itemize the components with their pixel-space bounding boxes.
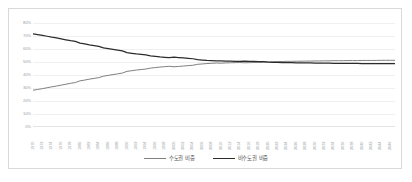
x-axis-tick-label: 2014 (237, 142, 241, 150)
x-axis-tick-label: 2006 (200, 142, 204, 150)
y-axis-tick-label: 60% (15, 47, 31, 51)
x-axis-tick-label: 1976 (59, 142, 63, 150)
x-axis-tick-label: 2018 (256, 142, 260, 150)
y-axis-tick-label: 10% (15, 112, 31, 116)
x-axis-tick-label: 2008 (209, 142, 213, 150)
y-axis-tick-label: 40% (15, 73, 31, 77)
x-axis-tick-label: 2010 (219, 142, 223, 150)
legend-line-swatch (213, 158, 235, 159)
chart-plot-wrapper: 80%70%60%50%40%30%20%10%0% 1970197219741… (9, 9, 403, 170)
x-axis-tick-label: 2038 (350, 142, 354, 150)
x-axis-tick-label: 2020 (266, 142, 270, 150)
chart-container: 80%70%60%50%40%30%20%10%0% 1970197219741… (8, 8, 402, 169)
x-axis-tick-label: 1990 (125, 142, 129, 150)
x-axis-tick-label: 1992 (134, 142, 138, 150)
legend-label: 수도권 비중 (169, 155, 195, 161)
x-axis-tick-label: 2030 (313, 142, 317, 150)
x-axis-tick-label: 2036 (341, 142, 345, 150)
x-axis-tick-label: 2026 (294, 142, 298, 150)
x-axis-tick-label: 1974 (49, 142, 53, 150)
chart-legend: 수도권 비중비수도권 비중 (9, 152, 403, 164)
y-axis: 80%70%60%50%40%30%20%10%0% (15, 23, 31, 127)
legend-item[interactable]: 수도권 비중 (144, 155, 195, 161)
x-axis-tick-label: 2042 (369, 142, 373, 150)
x-axis-tick-label: 2040 (360, 142, 364, 150)
x-axis-tick-label: 2022 (275, 142, 279, 150)
legend-item[interactable]: 비수도권 비중 (213, 155, 269, 161)
x-axis-tick-label: 1984 (96, 142, 100, 150)
y-axis-tick-label: 30% (15, 86, 31, 90)
plot-area (33, 23, 395, 127)
x-axis-tick-label: 2000 (172, 142, 176, 150)
x-axis-tick-label: 1980 (78, 142, 82, 150)
x-axis-tick-label: 1988 (115, 142, 119, 150)
x-axis-tick-label: 2028 (303, 142, 307, 150)
series-lines (33, 23, 395, 127)
x-axis-tick-label: 1978 (68, 142, 72, 150)
y-axis-tick-label: 50% (15, 60, 31, 64)
x-axis-tick-label: 2034 (331, 142, 335, 150)
x-axis-tick-label: 2004 (190, 142, 194, 150)
x-axis: 1970197219741976197819801982198419861988… (33, 128, 395, 150)
x-axis-tick-label: 2002 (181, 142, 185, 150)
x-axis-tick-label: 2024 (284, 142, 288, 150)
x-axis-tick-label: 1998 (162, 142, 166, 150)
series-line-2 (33, 34, 395, 64)
x-axis-tick-label: 1982 (87, 142, 91, 150)
y-axis-tick-label: 70% (15, 34, 31, 38)
x-axis-tick-label: 2046 (388, 142, 392, 150)
y-axis-tick-label: 80% (15, 21, 31, 25)
x-axis-tick-label: 2044 (378, 142, 382, 150)
legend-label: 비수도권 비중 (238, 155, 269, 161)
x-axis-tick-label: 1970 (31, 142, 35, 150)
y-axis-tick-label: 0% (15, 125, 31, 129)
series-line-1 (33, 60, 395, 90)
x-axis-tick-label: 1996 (153, 142, 157, 150)
x-axis-tick-label: 2032 (322, 142, 326, 150)
x-axis-tick-label: 1986 (106, 142, 110, 150)
x-axis-tick-label: 1972 (40, 142, 44, 150)
x-axis-tick-label: 2016 (247, 142, 251, 150)
legend-line-swatch (144, 158, 166, 159)
x-axis-tick-label: 2012 (228, 142, 232, 150)
x-axis-tick-label: 1994 (143, 142, 147, 150)
y-axis-tick-label: 20% (15, 99, 31, 103)
